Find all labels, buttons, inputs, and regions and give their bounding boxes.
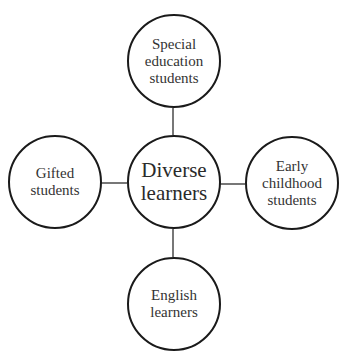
connector-bottom	[172, 229, 174, 257]
connector-left	[101, 182, 127, 184]
node-label: Special education students	[145, 36, 203, 87]
node-label: Early childhood students	[262, 158, 322, 209]
node-gifted: Gifted students	[8, 135, 102, 229]
node-diverse-learners: Diverse learners	[127, 135, 221, 229]
node-label: Gifted students	[30, 165, 79, 199]
node-special-education: Special education students	[127, 14, 221, 108]
node-early-childhood: Early childhood students	[245, 136, 339, 230]
connector-top	[172, 108, 174, 135]
node-label: Diverse learners	[141, 159, 207, 205]
connector-right	[220, 183, 245, 185]
node-english-learners: English learners	[127, 257, 221, 351]
diverse-learners-diagram: Special education students Gifted studen…	[0, 0, 345, 359]
node-label: English learners	[150, 287, 197, 321]
